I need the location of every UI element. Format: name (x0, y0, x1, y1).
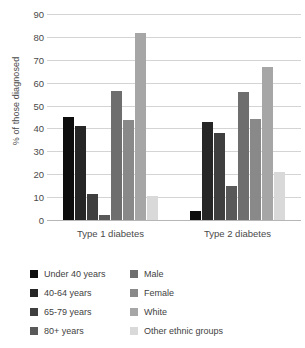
bar[interactable] (123, 120, 134, 220)
bar[interactable] (274, 172, 285, 220)
legend-item[interactable]: White (130, 307, 288, 317)
bar[interactable] (75, 126, 86, 220)
legend-swatch-icon (30, 308, 38, 316)
bar[interactable] (214, 133, 225, 220)
legend-item[interactable]: Male (130, 269, 288, 279)
legend-swatch-icon (30, 289, 38, 297)
legend-label: Under 40 years (44, 269, 106, 279)
bar[interactable] (262, 67, 273, 220)
legend-label: Female (144, 288, 174, 298)
legend-swatch-icon (130, 289, 138, 297)
y-axis-tick-90: 90 (33, 9, 44, 20)
bar[interactable] (202, 122, 213, 220)
y-axis-tick-labels: 9080706050403020100 (22, 14, 44, 220)
legend-item[interactable]: Other ethnic groups (130, 326, 288, 336)
legend-swatch-icon (130, 308, 138, 316)
legend-swatch-icon (130, 327, 138, 335)
legend-item[interactable]: Female (130, 288, 288, 298)
bar[interactable] (190, 211, 201, 220)
axis-baseline (47, 220, 301, 221)
y-axis-tick-10: 10 (33, 192, 44, 203)
y-axis-title: % of those diagnosed (11, 31, 21, 171)
legend-label: 65-79 years (44, 307, 92, 317)
legend-item[interactable]: 80+ years (30, 326, 130, 336)
bar-chart: % of those diagnosed 9080706050403020100… (0, 0, 305, 348)
y-axis-tick-80: 80 (33, 31, 44, 42)
bar[interactable] (147, 196, 158, 220)
legend-label: White (144, 307, 167, 317)
legend-swatch-icon (30, 270, 38, 278)
y-axis-tick-60: 60 (33, 77, 44, 88)
legend-label: 40-64 years (44, 288, 92, 298)
bar[interactable] (135, 33, 146, 220)
bar[interactable] (250, 119, 261, 220)
chart-legend: Under 40 yearsMale40-64 yearsFemale65-79… (30, 264, 288, 340)
y-axis-tick-70: 70 (33, 54, 44, 65)
y-axis-tick-50: 50 (33, 100, 44, 111)
bar[interactable] (111, 91, 122, 220)
bar[interactable] (99, 215, 110, 220)
legend-item[interactable]: Under 40 years (30, 269, 130, 279)
bar-groups (47, 14, 301, 220)
bar-group (47, 14, 174, 220)
bar-group (174, 14, 301, 220)
legend-swatch-icon (130, 270, 138, 278)
legend-swatch-icon (30, 327, 38, 335)
bar[interactable] (238, 92, 249, 220)
y-axis-tick-30: 30 (33, 146, 44, 157)
x-axis-label: Type 1 diabetes (47, 228, 174, 239)
bar[interactable] (63, 117, 74, 220)
legend-label: 80+ years (44, 326, 84, 336)
legend-label: Other ethnic groups (144, 326, 223, 336)
y-axis-tick-40: 40 (33, 123, 44, 134)
x-axis-label: Type 2 diabetes (174, 228, 301, 239)
y-axis-tick-20: 20 (33, 169, 44, 180)
legend-item[interactable]: 40-64 years (30, 288, 130, 298)
plot-area: % of those diagnosed 9080706050403020100… (0, 0, 305, 255)
bar[interactable] (87, 194, 98, 220)
x-axis-category-labels: Type 1 diabetesType 2 diabetes (47, 228, 301, 239)
legend-item[interactable]: 65-79 years (30, 307, 130, 317)
legend-label: Male (144, 269, 164, 279)
y-axis-tick-0: 0 (39, 215, 44, 226)
bar[interactable] (226, 186, 237, 220)
